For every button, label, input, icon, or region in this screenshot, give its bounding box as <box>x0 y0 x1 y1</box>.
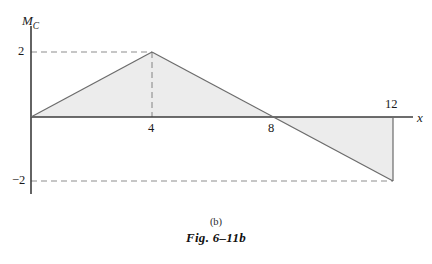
y-axis-label-subscript: C <box>33 21 39 31</box>
y-axis-label: MC <box>22 14 39 31</box>
figure-caption: (b) Fig. 6–11b <box>0 216 432 246</box>
caption-figure-number: Fig. 6–11b <box>0 230 432 246</box>
y-axis-label-main: M <box>22 13 33 28</box>
y-tick-label-neg2: −2 <box>12 174 25 187</box>
x-tick-label-12: 12 <box>385 98 398 111</box>
x-tick-label-8: 8 <box>268 122 274 135</box>
x-axis-label: x <box>417 111 423 124</box>
figure-container: MC x 2 −2 4 8 12 (b) Fig. 6–11b <box>0 0 432 264</box>
x-tick-label-4: 4 <box>148 122 154 135</box>
y-tick-label-2: 2 <box>18 45 24 58</box>
caption-subfigure-label: (b) <box>0 216 432 227</box>
